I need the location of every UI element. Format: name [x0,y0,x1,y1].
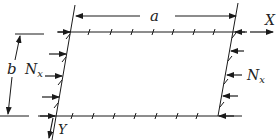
load-label-left: Nx [24,61,43,79]
load-label-right: Nx [246,67,265,85]
dimension-b-label: b [7,60,17,78]
x-axis-label: X [264,12,276,28]
dimension-a-label: a [150,7,159,25]
bottom-edge [38,113,242,119]
right-edge [218,3,238,116]
skew-plate-diagram: X [0,0,276,140]
left-load-arrows [40,32,70,116]
y-axis-label: Y [58,122,68,137]
top-edge [57,29,245,35]
left-edge [52,5,75,140]
